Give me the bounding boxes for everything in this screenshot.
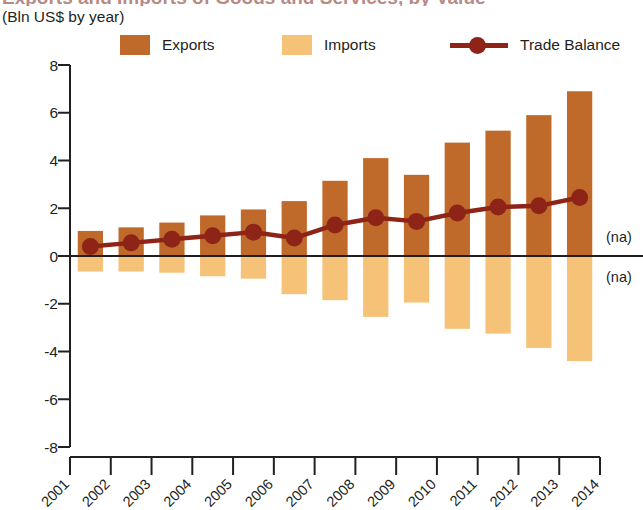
plot-area: 86420-2-4-6-8 20012002200320042005200620…	[0, 0, 643, 510]
imports-bar	[78, 256, 103, 272]
trade-balance-marker	[245, 224, 262, 241]
y-axis-tick-labels: 86420-2-4-6-8	[44, 57, 58, 456]
exports-bar	[445, 143, 470, 256]
trade-balance-marker	[530, 197, 547, 214]
y-tick-label: 6	[49, 104, 58, 121]
imports-bars	[78, 256, 593, 361]
imports-bar	[241, 256, 266, 279]
y-tick-label: -8	[44, 439, 58, 456]
x-tick-label: 2008	[323, 476, 357, 510]
trade-balance-marker	[490, 199, 507, 216]
x-tick-label: 2014	[568, 476, 602, 510]
trade-balance-marker	[123, 234, 140, 251]
trade-balance-marker	[82, 238, 99, 255]
na-label-lower: (na)	[606, 269, 632, 285]
y-tick-label: 2	[49, 200, 58, 217]
y-tick-label: 8	[49, 57, 58, 74]
imports-bar	[404, 256, 429, 303]
x-tick-label: 2012	[486, 476, 520, 510]
x-tick-label: 2006	[242, 476, 276, 510]
y-tick-label: -6	[44, 391, 58, 408]
x-tick-label: 2002	[79, 476, 113, 510]
imports-bar	[526, 256, 551, 348]
exports-bar	[282, 201, 307, 256]
x-tick-label: 2005	[201, 476, 235, 510]
x-tick-label: 2001	[38, 476, 72, 510]
x-tick-label: 2004	[160, 476, 194, 510]
trade-balance-marker	[449, 205, 466, 222]
trade-balance-marker	[571, 189, 588, 206]
y-axis-tick-marks	[58, 65, 70, 447]
exports-bar	[526, 115, 551, 256]
y-tick-label: -2	[44, 295, 58, 312]
imports-bar	[159, 256, 184, 273]
exports-bar	[363, 158, 388, 256]
trade-balance-marker	[327, 216, 344, 233]
exports-bar	[567, 91, 592, 256]
trade-balance-marker	[367, 209, 384, 226]
imports-bar	[363, 256, 388, 317]
imports-bar	[567, 256, 592, 361]
na-label-upper: (na)	[606, 229, 632, 245]
trade-balance-marker	[286, 230, 303, 247]
imports-bar	[119, 256, 144, 272]
x-tick-label: 2013	[527, 476, 561, 510]
x-tick-label: 2011	[446, 476, 479, 509]
imports-bar	[322, 256, 347, 300]
imports-bar	[282, 256, 307, 294]
trade-balance-marker	[408, 213, 425, 230]
trade-balance-marker	[204, 227, 221, 244]
y-tick-label: -4	[44, 343, 58, 360]
x-axis-tick-labels: 2001200220032004200520062007200820092010…	[38, 476, 602, 510]
x-tick-label: 2010	[405, 476, 439, 510]
y-tick-label: 0	[49, 248, 58, 265]
x-tick-label: 2007	[283, 476, 317, 510]
x-axis-tick-marks	[70, 457, 600, 475]
trade-balance-marker	[163, 231, 180, 248]
y-tick-label: 4	[49, 152, 58, 169]
imports-bar	[445, 256, 470, 329]
chart-canvas: 86420-2-4-6-8 20012002200320042005200620…	[0, 0, 643, 510]
x-tick-label: 2003	[120, 476, 154, 510]
imports-bar	[485, 256, 510, 334]
imports-bar	[200, 256, 225, 276]
x-tick-label: 2009	[364, 476, 398, 510]
exports-bar	[485, 131, 510, 256]
